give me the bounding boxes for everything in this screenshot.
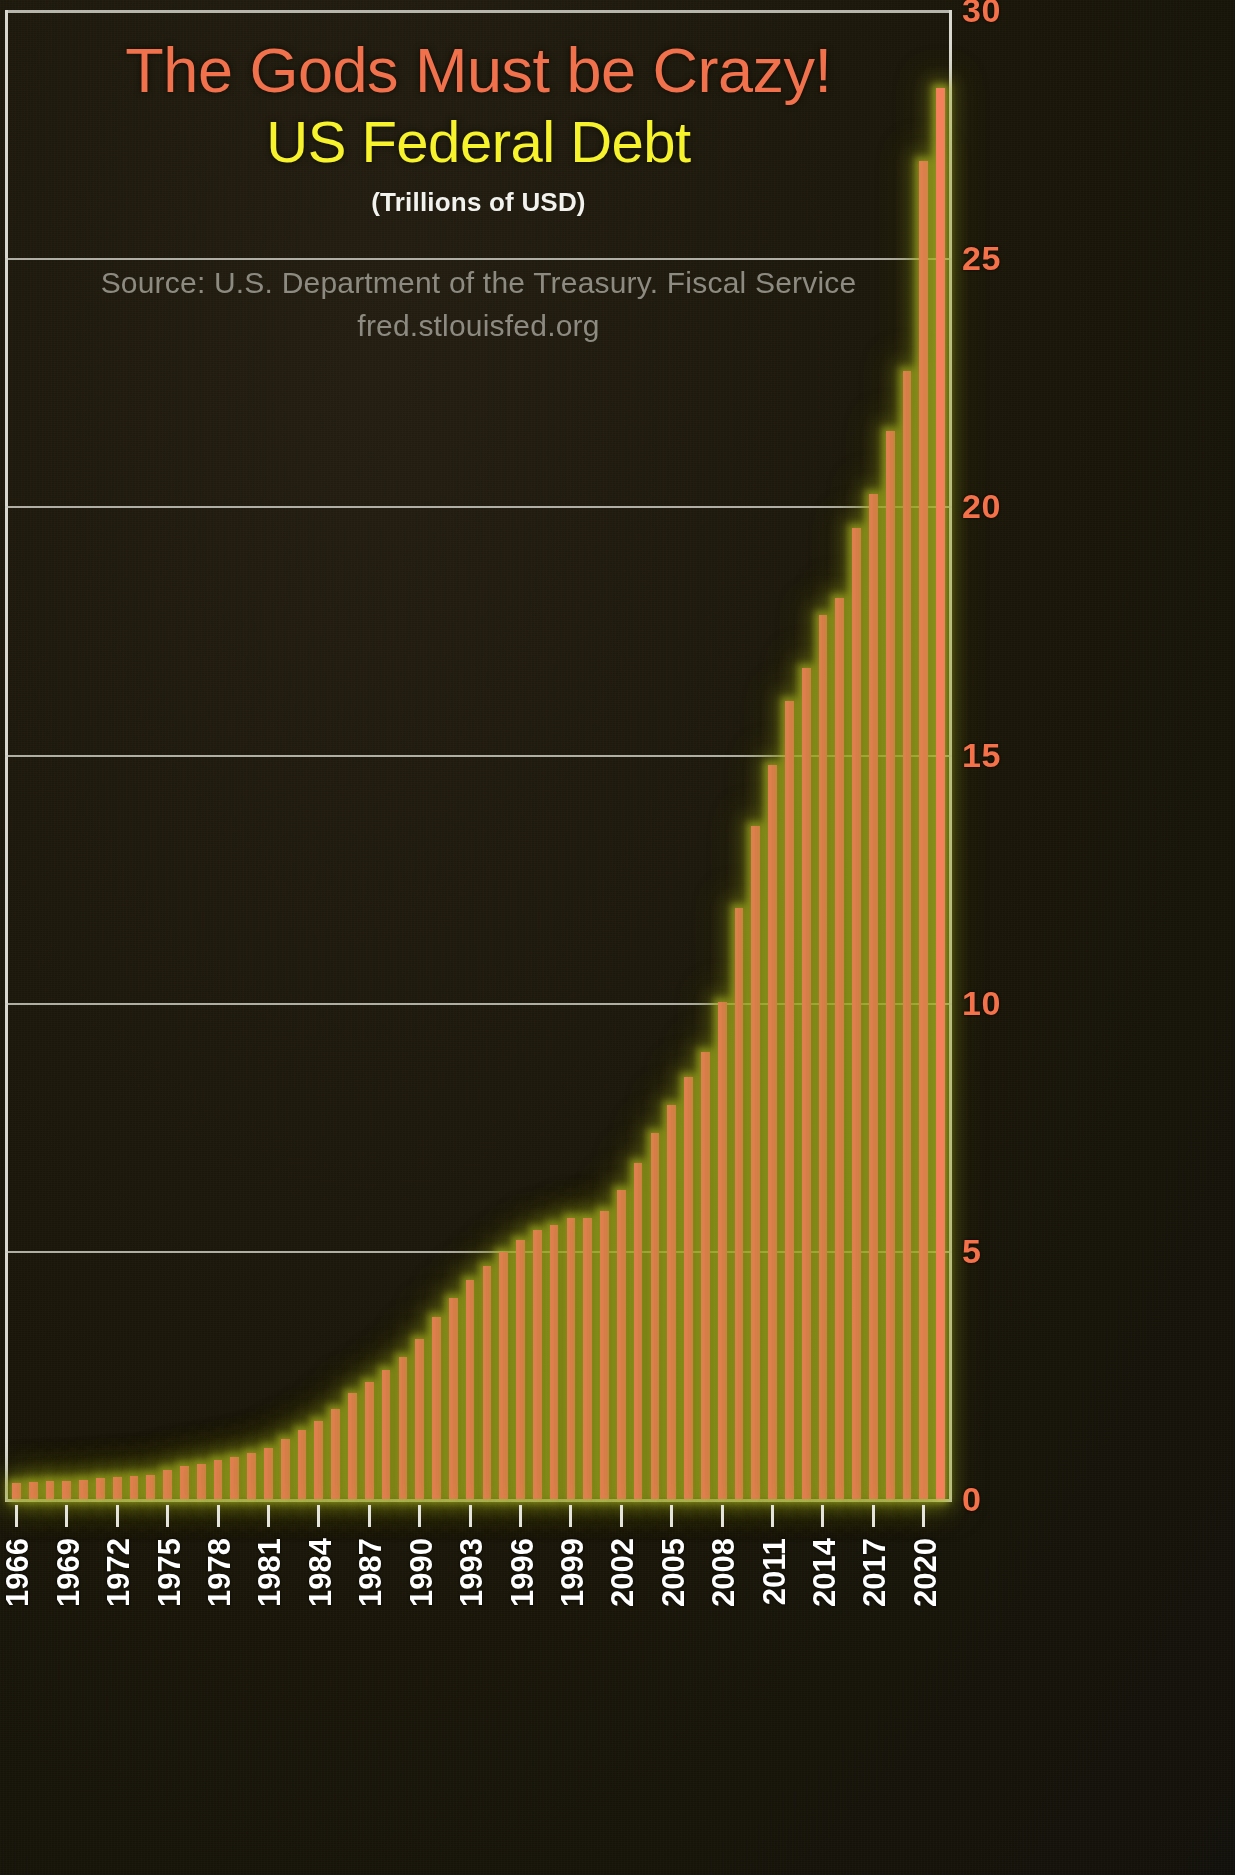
bar — [449, 1298, 458, 1500]
bar — [146, 1475, 155, 1499]
bar — [600, 1211, 609, 1499]
bar — [415, 1339, 424, 1499]
plot-area — [5, 10, 952, 1502]
bar-column — [899, 10, 916, 1499]
x-axis-tick — [620, 1505, 623, 1527]
bar-column — [479, 10, 496, 1499]
bar — [617, 1190, 626, 1499]
bar — [399, 1357, 408, 1499]
bar-column — [865, 10, 882, 1499]
bar — [634, 1163, 643, 1500]
x-axis-label: 1999 — [555, 1538, 591, 1607]
x-axis-tick — [922, 1505, 925, 1527]
bar — [533, 1230, 542, 1499]
x-axis-tick — [670, 1505, 673, 1527]
bar — [667, 1105, 676, 1499]
bar-column — [630, 10, 647, 1499]
x-axis-label: 2008 — [706, 1538, 742, 1607]
bar — [314, 1421, 323, 1499]
bar-column — [142, 10, 159, 1499]
bar — [163, 1470, 172, 1499]
y-axis-label: 25 — [962, 239, 1001, 278]
bar-column — [798, 10, 815, 1499]
bar-column — [647, 10, 664, 1499]
bar-column — [714, 10, 731, 1499]
x-axis-label: 1996 — [505, 1538, 541, 1607]
bar-column — [663, 10, 680, 1499]
bar-column — [563, 10, 580, 1499]
bar-column — [243, 10, 260, 1499]
bar-column — [428, 10, 445, 1499]
x-axis-label: 1990 — [404, 1538, 440, 1607]
x-axis-label: 2020 — [908, 1538, 944, 1607]
bar — [12, 1483, 21, 1499]
bar-column — [411, 10, 428, 1499]
x-axis-tick — [368, 1505, 371, 1527]
x-axis-tick — [166, 1505, 169, 1527]
bar — [684, 1077, 693, 1499]
x-axis-label: 1993 — [454, 1538, 490, 1607]
bar — [466, 1280, 475, 1499]
bar-column — [344, 10, 361, 1499]
x-axis-label: 1972 — [101, 1538, 137, 1607]
bar — [802, 668, 811, 1499]
x-axis-tick — [418, 1505, 421, 1527]
bar-column — [378, 10, 395, 1499]
bar — [62, 1481, 71, 1499]
x-axis-label: 1975 — [152, 1538, 188, 1607]
bar-column — [260, 10, 277, 1499]
x-axis-tick — [217, 1505, 220, 1527]
x-axis-tick — [116, 1505, 119, 1527]
x-axis-tick — [821, 1505, 824, 1527]
bar-column — [546, 10, 563, 1499]
x-axis-label: 1981 — [252, 1538, 288, 1607]
bar-column — [327, 10, 344, 1499]
bar-column — [512, 10, 529, 1499]
bar — [432, 1317, 441, 1499]
bar-column — [92, 10, 109, 1499]
bar — [247, 1453, 256, 1499]
bar-column — [42, 10, 59, 1499]
x-axis-label: 2014 — [807, 1538, 843, 1607]
bar — [516, 1240, 525, 1499]
y-axis-label: 15 — [962, 735, 1001, 774]
bar-column — [159, 10, 176, 1499]
x-axis-tick — [65, 1505, 68, 1527]
x-axis-label: 1969 — [51, 1538, 87, 1607]
x-axis-tick — [771, 1505, 774, 1527]
bar-column — [75, 10, 92, 1499]
x-axis-tick — [15, 1505, 18, 1527]
bar-column — [8, 10, 25, 1499]
bar — [499, 1252, 508, 1499]
bar — [919, 161, 928, 1499]
x-axis-label: 2011 — [757, 1538, 793, 1605]
bar — [835, 598, 844, 1499]
bar-column — [747, 10, 764, 1499]
x-axis-tick — [267, 1505, 270, 1527]
bar-column — [680, 10, 697, 1499]
bar — [96, 1478, 105, 1499]
bar-column — [613, 10, 630, 1499]
bar — [567, 1218, 576, 1499]
bar-column — [193, 10, 210, 1499]
bar — [701, 1052, 710, 1499]
x-axis-tick — [469, 1505, 472, 1527]
bar-column — [915, 10, 932, 1499]
bar-column — [579, 10, 596, 1499]
bar — [483, 1266, 492, 1499]
bar — [768, 765, 777, 1499]
x-axis-tick — [317, 1505, 320, 1527]
x-axis-tick — [872, 1505, 875, 1527]
bar — [718, 1002, 727, 1499]
bar-column — [731, 10, 748, 1499]
bar — [852, 528, 861, 1499]
bar — [113, 1477, 122, 1499]
x-axis-label: 1978 — [202, 1538, 238, 1607]
bar-column — [848, 10, 865, 1499]
bar-column — [529, 10, 546, 1499]
bar-column — [764, 10, 781, 1499]
bar-series — [8, 10, 949, 1499]
x-axis-label: 2005 — [656, 1538, 692, 1607]
x-axis-label: 2002 — [605, 1538, 641, 1607]
bar — [869, 494, 878, 1499]
